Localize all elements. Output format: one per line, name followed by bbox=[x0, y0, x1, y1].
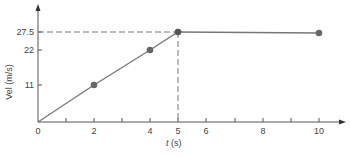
x-axis-arrow-icon bbox=[339, 120, 346, 125]
y-axis-label: Vel (m/s) bbox=[4, 64, 14, 100]
x-ticks bbox=[66, 118, 319, 122]
x-tick-label-4: 4 bbox=[147, 126, 152, 136]
y-tick-label-11: 11 bbox=[25, 80, 34, 90]
x-tick-label-0: 0 bbox=[35, 126, 40, 136]
data-point-4s bbox=[147, 47, 154, 54]
x-tick-label-5: 5 bbox=[175, 126, 180, 136]
y-ticks bbox=[38, 32, 42, 85]
x-tick-label-6: 6 bbox=[203, 126, 208, 136]
data-point-10s bbox=[316, 30, 323, 37]
data-point-5s bbox=[175, 29, 182, 36]
y-tick-label-27-5: 27.5 bbox=[16, 27, 34, 37]
velocity-time-chart: 0 2 4 5 6 8 10 11 22 27.5 t (s) Vel (m/s… bbox=[0, 0, 350, 156]
x-tick-label-8: 8 bbox=[260, 126, 265, 136]
x-axis-label: t (s) bbox=[166, 138, 182, 148]
x-tick-label-10: 10 bbox=[314, 126, 324, 136]
x-tick-label-2: 2 bbox=[91, 126, 96, 136]
y-axis-arrow-icon bbox=[36, 4, 41, 11]
y-tick-label-22: 22 bbox=[24, 45, 34, 55]
data-point-2s bbox=[91, 82, 98, 89]
